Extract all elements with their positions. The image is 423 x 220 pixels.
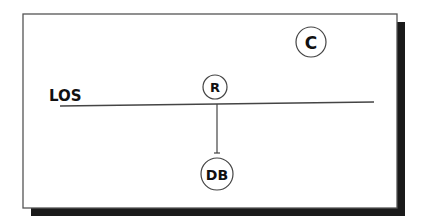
diagram-canvas: LOS C R DB (0, 0, 423, 220)
node-db-label: DB (206, 167, 228, 183)
node-c-label: C (305, 33, 317, 53)
node-c[interactable]: C (296, 27, 326, 57)
node-r-label: R (210, 80, 220, 95)
node-db[interactable]: DB (201, 158, 233, 190)
node-r[interactable]: R (203, 75, 227, 99)
los-label: LOS (49, 87, 82, 105)
